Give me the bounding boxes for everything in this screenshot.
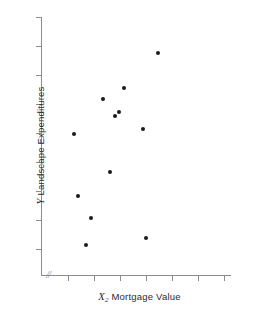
data-point [122, 86, 126, 90]
x-axis-line [41, 275, 231, 276]
data-point [108, 170, 112, 174]
x-tick-2 [120, 276, 121, 281]
x-tick-1 [94, 276, 95, 281]
x-axis-variable-letter: X [98, 291, 105, 302]
y-axis-label-text: Landscape Expenditures [35, 87, 46, 196]
x-axis-variable-subscript: 2 [105, 296, 109, 304]
data-point [117, 110, 121, 114]
scatter-plot: // Y Landscape Expenditures X2 Mortgage … [0, 0, 279, 315]
y-tick-0 [36, 17, 41, 18]
x-tick-5 [198, 276, 199, 281]
data-point [76, 194, 80, 198]
x-tick-0 [68, 276, 69, 281]
x-tick-4 [172, 276, 173, 281]
data-point [101, 97, 105, 101]
data-point [156, 51, 160, 55]
x-tick-6 [224, 276, 225, 281]
data-point [89, 216, 93, 220]
data-point [84, 243, 88, 247]
y-tick-1 [36, 46, 41, 47]
data-point [113, 114, 117, 118]
y-axis-variable: Y [35, 198, 46, 204]
x-axis-label-text: Mortgage Value [112, 291, 181, 302]
axis-break-symbol: // [46, 269, 55, 280]
y-tick-8 [36, 249, 41, 250]
data-point [72, 132, 76, 136]
x-axis-label: X2 Mortgage Value [0, 291, 279, 304]
y-axis-label: Y Landscape Expenditures [35, 61, 46, 231]
x-axis-variable: X2 [98, 291, 108, 302]
data-point [141, 127, 145, 131]
x-tick-3 [146, 276, 147, 281]
data-point [144, 236, 148, 240]
